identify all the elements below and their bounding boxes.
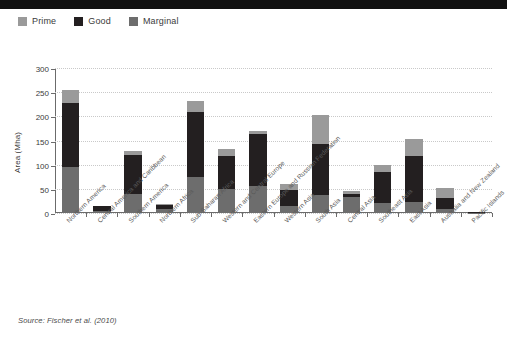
bar-segment-prime [218, 149, 235, 156]
y-tick-mark [51, 93, 55, 94]
legend-label-good: Good [88, 16, 111, 26]
bar-segment-prime [374, 165, 391, 172]
x-tick-mark [305, 213, 306, 217]
legend-swatch-prime [18, 17, 27, 26]
y-tick-label: 50 [40, 185, 49, 194]
bar-segment-prime [312, 115, 329, 144]
y-tick-label: 0 [45, 210, 49, 219]
x-tick-mark [149, 213, 150, 217]
y-tick-label: 100 [36, 161, 49, 170]
y-axis-title: Area (Mha) [13, 98, 22, 208]
bar-stack [249, 131, 266, 213]
x-tick-mark [242, 213, 243, 217]
legend-item-good: Good [74, 16, 111, 26]
legend-item-marginal: Marginal [129, 16, 179, 26]
bar-stack [62, 90, 79, 213]
y-tick-mark [51, 142, 55, 143]
x-tick-mark [336, 213, 337, 217]
bar-segment-prime [187, 101, 204, 112]
y-tick-mark [51, 117, 55, 118]
bar-stack [405, 139, 422, 213]
bar-segment-prime [436, 188, 453, 198]
bar-segment-good [187, 112, 204, 177]
gridline: 200 [55, 116, 492, 117]
x-tick-mark [461, 213, 462, 217]
legend-swatch-marginal [129, 17, 138, 26]
x-tick-mark [86, 213, 87, 217]
chart-legend: Prime Good Marginal [18, 16, 179, 26]
y-tick-label: 250 [36, 89, 49, 98]
x-tick-mark [367, 213, 368, 217]
legend-label-prime: Prime [32, 16, 56, 26]
x-tick-mark [211, 213, 212, 217]
bar-segment-good [62, 103, 79, 167]
legend-item-prime: Prime [18, 16, 56, 26]
source-note: Source: Fischer et al. (2010) [18, 316, 117, 325]
y-tick-mark [51, 69, 55, 70]
y-tick-mark [51, 190, 55, 191]
y-tick-label: 150 [36, 137, 49, 146]
bar-segment-good [374, 172, 391, 203]
x-tick-mark [398, 213, 399, 217]
gridline: 150 [55, 141, 492, 142]
top-black-bar [0, 0, 507, 9]
y-tick-label: 200 [36, 113, 49, 122]
chart-plot-area: Area (Mha) 050100150200250300 Northern A… [0, 40, 507, 300]
gridline: 50 [55, 189, 492, 190]
y-tick-label: 300 [36, 65, 49, 74]
legend-swatch-good [74, 17, 83, 26]
y-tick-mark [51, 214, 55, 215]
bar-segment-prime [62, 90, 79, 103]
x-tick-mark [274, 213, 275, 217]
x-tick-mark [492, 213, 493, 217]
plot-box: 050100150200250300 [55, 68, 492, 213]
x-tick-mark [430, 213, 431, 217]
x-tick-mark [117, 213, 118, 217]
legend-label-marginal: Marginal [143, 16, 179, 26]
gridline: 250 [55, 92, 492, 93]
y-tick-mark [51, 166, 55, 167]
bar-segment-prime [405, 139, 422, 156]
gridline: 300 [55, 68, 492, 69]
x-tick-mark [180, 213, 181, 217]
